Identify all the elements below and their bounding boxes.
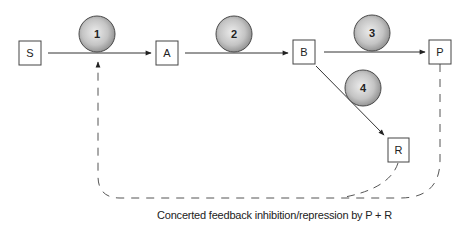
enzyme-3-label: 3 <box>369 27 375 39</box>
node-s: S <box>19 41 41 65</box>
node-r: R <box>388 138 409 162</box>
enzyme-1: 1 <box>79 16 115 52</box>
node-r-label: R <box>395 144 403 156</box>
feedback-path-r <box>345 163 398 197</box>
node-s-label: S <box>26 47 33 59</box>
diagram-caption: Concerted feedback inhibition/repression… <box>157 209 392 221</box>
node-p-label: P <box>436 46 443 58</box>
node-a-label: A <box>163 47 171 59</box>
enzyme-4: 4 <box>345 70 381 106</box>
enzyme-4-label: 4 <box>360 82 367 94</box>
pathway-diagram: S A B P R 1 2 3 4 Concerted feedback inh… <box>0 0 465 228</box>
node-a: A <box>156 41 178 65</box>
node-p: P <box>429 40 451 64</box>
enzyme-3: 3 <box>354 15 390 51</box>
node-b: B <box>293 40 315 64</box>
enzyme-2: 2 <box>216 16 252 52</box>
enzyme-1-label: 1 <box>94 28 100 40</box>
node-b-label: B <box>300 46 307 58</box>
enzyme-2-label: 2 <box>231 28 237 40</box>
